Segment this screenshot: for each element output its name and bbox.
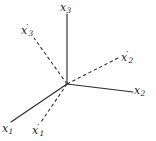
axis-label-x1-prime: x′1 — [32, 124, 44, 138]
axis-label-x2-prime-subscript: 2 — [128, 56, 133, 65]
axis-label-x1-subscript: 1 — [8, 127, 13, 136]
axes-drawing — [0, 0, 156, 141]
axis-label-x3-subscript: 3 — [66, 6, 71, 15]
axis-label-x1: x1 — [2, 123, 13, 136]
axis-label-x2-prime: x′2 — [121, 51, 133, 65]
axis-label-x3: x3 — [60, 2, 71, 15]
axis-label-x2-subscript: 2 — [140, 89, 145, 98]
axis-label-x2: x2 — [134, 85, 145, 98]
axis-line-x1 — [11, 84, 67, 122]
axis-line-x2 — [67, 84, 133, 92]
coordinate-axes-figure: x3 x′3 x′2 x2 x1 x′1 — [0, 0, 156, 141]
axis-label-x3-prime: x′3 — [21, 24, 33, 38]
axis-label-x1-prime-subscript: 1 — [39, 129, 44, 138]
axis-line-x1-prime — [41, 84, 67, 122]
axis-line-x2-prime — [67, 57, 120, 84]
axis-line-x3-prime — [34, 38, 67, 84]
axis-label-x3-prime-subscript: 3 — [28, 29, 33, 38]
